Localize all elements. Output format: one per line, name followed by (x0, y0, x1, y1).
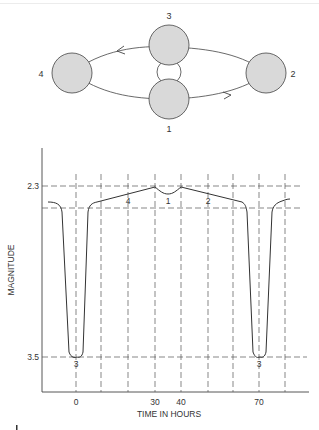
x-tick-70: 70 (254, 397, 264, 407)
phase-label-2: 2 (206, 196, 211, 206)
y-tick-3-5: 3.5 (27, 352, 39, 362)
light-curve-line (48, 187, 290, 357)
companion-position-1 (149, 79, 189, 119)
x-tick-30: 30 (150, 397, 160, 407)
y-tick-2-3: 2.3 (27, 181, 39, 191)
position-label-3: 3 (166, 11, 171, 21)
x-tick-0: 0 (74, 397, 79, 407)
position-label-2: 2 (290, 69, 295, 79)
y-axis-label: MAGNITUDE (6, 244, 16, 295)
orbit-arrow-right-icon (223, 92, 231, 99)
light-curve-chart: 2.3 3.5 MAGNITUDE 0 30 40 70 TIME IN HOU… (6, 148, 309, 419)
companion-position-2 (246, 53, 286, 93)
position-label-1: 1 (166, 124, 171, 134)
orbit-diagram: 3 1 4 2 (38, 11, 295, 134)
position-label-4: 4 (38, 69, 43, 79)
corner-mark (16, 425, 18, 430)
companion-position-4 (52, 53, 92, 93)
phase-label-3-right: 3 (257, 359, 262, 369)
phase-label-4: 4 (126, 196, 131, 206)
vertical-gridlines (76, 174, 285, 392)
x-axis-label: TIME IN HOURS (137, 409, 202, 419)
phase-label-3-left: 3 (74, 359, 79, 369)
x-tick-40: 40 (176, 397, 186, 407)
phase-label-1: 1 (166, 196, 171, 206)
companion-position-3 (149, 25, 189, 65)
eclipsing-binary-figure: 3 1 4 2 2.3 3.5 (0, 0, 319, 430)
